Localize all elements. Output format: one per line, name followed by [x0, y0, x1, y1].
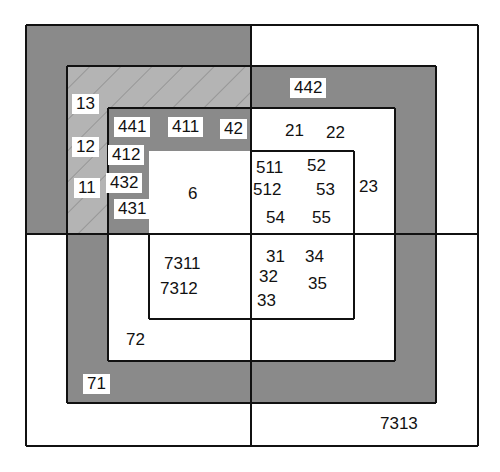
region-label: 55: [312, 208, 331, 228]
region-label: 13: [72, 94, 99, 114]
region-label: 42: [220, 119, 247, 139]
region-label: 34: [305, 247, 324, 267]
region-label: 33: [257, 291, 276, 311]
region-label: 35: [308, 274, 327, 294]
region-label: 71: [83, 374, 110, 394]
region-label: 6: [184, 184, 201, 204]
region-label: 7313: [380, 414, 418, 434]
region-label: 411: [168, 117, 203, 137]
region-label: 53: [316, 180, 335, 200]
region-label: 31: [266, 247, 285, 267]
region-label: 21: [285, 121, 304, 141]
region-label: 11: [74, 178, 100, 198]
region-label: 432: [106, 173, 142, 193]
region-label: 32: [259, 267, 278, 287]
region-label: 442: [290, 78, 326, 98]
region-label: 23: [359, 177, 378, 197]
region-label: 412: [108, 145, 144, 165]
region-label: 7312: [160, 279, 198, 299]
region-label: 52: [307, 156, 326, 176]
region-label: 441: [114, 117, 150, 137]
region-label: 431: [114, 199, 150, 219]
region-label: 511: [256, 158, 283, 178]
region-label: 512: [253, 180, 281, 200]
region-label: 7311: [164, 254, 201, 274]
region-label: 12: [72, 137, 99, 157]
region-label: 72: [126, 330, 145, 350]
region-label: 54: [266, 208, 285, 228]
nested-region-diagram: [0, 0, 500, 472]
region-label: 22: [326, 123, 345, 143]
